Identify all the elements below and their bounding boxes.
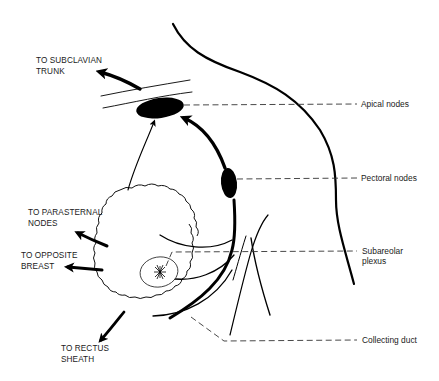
label-apical-nodes: Apical nodes	[361, 99, 409, 109]
apical-node	[135, 95, 185, 121]
breast-to-apical-vessel	[128, 122, 154, 190]
pectoral-fold-2	[251, 238, 270, 315]
label-subareolar-plexus: Subareolar plexus	[362, 246, 405, 266]
pectoral-to-apical-vessel	[184, 118, 225, 168]
pectoral-node	[219, 167, 238, 199]
to-rectus-sheath-arrow	[101, 312, 124, 340]
label-to-subclavian: TO SUBCLAVIAN TRUNK	[36, 56, 104, 76]
leader-pectoral	[237, 178, 357, 179]
leader-subareolar	[166, 251, 357, 266]
body-outline	[173, 24, 354, 284]
leader-apical	[184, 104, 357, 105]
label-to-parasternal: TO PARASTERNAL NODES	[28, 208, 104, 228]
subclavian-vessel-upper	[101, 80, 190, 96]
label-pectoral-nodes: Pectoral nodes	[361, 173, 417, 183]
breast-lymphatic-drainage-diagram: TO SUBCLAVIAN TRUNK TO PARASTERNAL NODES…	[0, 0, 439, 381]
leader-collecting-duct	[191, 317, 357, 341]
label-to-rectus-sheath: TO RECTUS SHEATH	[61, 344, 111, 364]
to-subclavian-arrow	[100, 72, 140, 89]
label-collecting-duct: Collecting duct	[362, 335, 418, 345]
